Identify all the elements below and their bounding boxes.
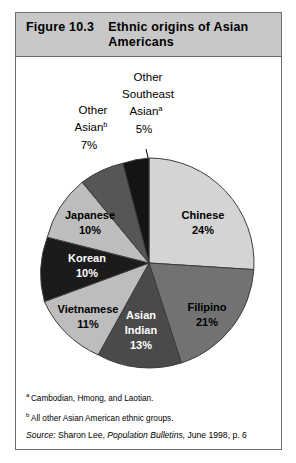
footnote-b: bAll other Asian American ethnic groups. xyxy=(26,409,271,424)
source-line: Source: Sharon Lee, Population Bulletins… xyxy=(26,430,271,441)
footnote-a: aCambodian, Hmong, and Laotian. xyxy=(26,389,271,404)
figure-notes: aCambodian, Hmong, and Laotian. bAll oth… xyxy=(16,383,281,449)
slice-label-asian-indian-line1: Asian xyxy=(126,309,156,321)
source-publication: Population Bulletins, xyxy=(107,430,185,440)
slice-label-japanese-name: Japanese xyxy=(65,209,115,221)
pie-callout-other-southeast-asian: Other Southeast Asiana 5% xyxy=(122,71,175,135)
slice-label-chinese-name: Chinese xyxy=(182,209,225,221)
slice-label-korean-name: Korean xyxy=(68,252,106,264)
callout-other-asian-line2-text: Asian xyxy=(75,121,104,133)
callout-other-southeast-asian-line3: Asiana xyxy=(130,104,164,117)
slice-label-vietnamese-value: 11% xyxy=(77,318,99,330)
callout-other-southeast-asian-line1: Other xyxy=(134,71,163,83)
slice-label-asian-indian-value: 13% xyxy=(130,339,152,351)
pie-chart: Chinese 24% Filipino 21% Asian Indian 13… xyxy=(16,57,281,387)
slice-label-korean-value: 10% xyxy=(76,267,98,279)
callout-other-asian-line2: Asianb xyxy=(75,120,108,133)
callout-other-southeast-asian-footnote-marker: a xyxy=(158,104,163,113)
callout-other-asian-value: 7% xyxy=(81,139,98,151)
figure-header: Figure 10.3 Ethnic origins of Asian Amer… xyxy=(16,13,281,57)
footnote-a-text: Cambodian, Hmong, and Laotian. xyxy=(31,393,153,402)
footnote-b-text: All other Asian American ethnic groups. xyxy=(31,414,173,423)
slice-label-filipino-name: Filipino xyxy=(187,301,226,313)
slice-label-japanese-value: 10% xyxy=(79,224,101,236)
figure-number: Figure 10.3 xyxy=(26,20,94,34)
pie-chart-area: Chinese 24% Filipino 21% Asian Indian 13… xyxy=(16,57,281,387)
callout-other-southeast-asian-line2: Southeast xyxy=(122,88,175,100)
figure-title: Ethnic origins of Asian Americans xyxy=(108,20,273,49)
source-author: Sharon Lee, xyxy=(58,430,105,440)
callout-other-southeast-asian-value: 5% xyxy=(136,123,153,135)
pie-callout-other-asian: Other Asianb 7% xyxy=(75,104,108,151)
source-prefix: Source: xyxy=(26,430,56,440)
slice-label-chinese-value: 24% xyxy=(192,224,214,236)
figure-container: Figure 10.3 Ethnic origins of Asian Amer… xyxy=(15,12,282,450)
slice-label-asian-indian-line2: Indian xyxy=(125,324,158,336)
slice-label-filipino-value: 21% xyxy=(196,316,218,328)
slice-label-vietnamese-name: Vietnamese xyxy=(58,303,119,315)
footnote-b-marker: b xyxy=(26,411,29,418)
footnote-a-marker: a xyxy=(26,391,29,398)
source-rest: June 1998, p. 6 xyxy=(188,430,247,440)
callout-other-southeast-asian-line3-text: Asian xyxy=(130,105,159,117)
callout-other-asian-footnote-marker: b xyxy=(103,120,107,129)
callout-other-asian-line1: Other xyxy=(79,104,108,116)
